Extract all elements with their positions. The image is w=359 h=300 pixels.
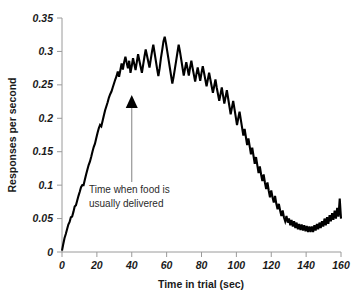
x-axis: 020406080100120140160 [59,252,350,271]
x-tick-label: 60 [161,259,173,271]
x-tick-label: 0 [59,259,65,271]
y-axis-tick-labels: 00.050.10.150.20.250.30.35 [33,12,54,258]
y-tick-label: 0 [47,246,53,258]
y-axis: 00.050.10.150.20.250.30.35 [33,12,62,258]
x-tick-label: 20 [90,259,103,271]
food-delivery-arrow [126,95,138,182]
x-tick-label: 120 [262,259,280,271]
x-tick-label: 160 [332,259,350,271]
annotation-line-2: usually delivered [89,198,164,209]
x-tick-label: 80 [196,259,208,271]
y-tick-label: 0.3 [38,45,53,57]
data-series-line [62,37,341,251]
x-tick-label: 40 [125,259,138,271]
y-tick-label: 0.35 [33,12,54,24]
annotation-line-1: Time when food is [89,184,170,195]
line-chart: 00.050.10.150.20.250.30.35 0204060801001… [0,0,359,300]
x-axis-ticks [62,252,341,257]
y-axis-title: Responses per second [6,78,18,193]
y-tick-label: 0.15 [33,145,54,157]
y-tick-label: 0.1 [38,179,53,191]
y-tick-label: 0.2 [38,112,53,124]
x-axis-title: Time in trial (sec) [158,278,244,290]
y-tick-label: 0.25 [33,78,54,90]
y-axis-ticks [57,18,62,252]
x-axis-tick-labels: 020406080100120140160 [59,259,350,271]
x-tick-label: 100 [228,259,246,271]
x-tick-label: 140 [297,259,315,271]
y-tick-label: 0.05 [33,212,54,224]
chart-figure: 00.050.10.150.20.250.30.35 0204060801001… [0,0,359,300]
